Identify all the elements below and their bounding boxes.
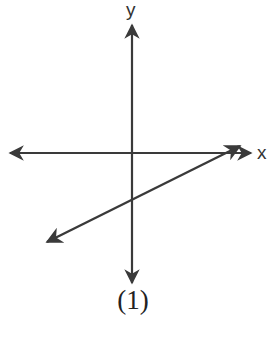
- x-axis-label: x: [257, 143, 267, 162]
- sloped-line: [47, 146, 240, 242]
- y-axis-label: y: [126, 0, 136, 19]
- figure-caption: (1): [0, 287, 266, 314]
